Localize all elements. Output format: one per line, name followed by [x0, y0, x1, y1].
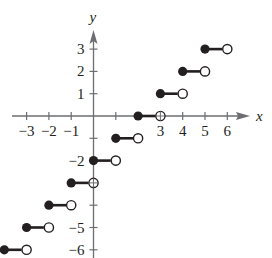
open-endpoint — [200, 67, 209, 76]
closed-endpoint — [134, 111, 143, 120]
x-tick-label: 6 — [224, 123, 232, 139]
x-tick-label: 3 — [157, 123, 165, 139]
y-tick-label: −5 — [69, 220, 85, 236]
open-endpoint — [178, 89, 187, 98]
y-tick-label: −2 — [69, 153, 85, 169]
x-axis-label: x — [255, 108, 263, 124]
y-tick-label: −6 — [69, 242, 85, 258]
y-axis-label: y — [88, 9, 97, 25]
y-tick-label: 2 — [77, 63, 85, 79]
open-endpoint — [67, 201, 76, 210]
closed-endpoint — [200, 45, 209, 54]
open-endpoint — [111, 156, 120, 165]
x-tick-label: −1 — [63, 123, 79, 139]
y-tick-label: 1 — [77, 86, 85, 102]
x-tick-label: −2 — [41, 123, 57, 139]
closed-endpoint — [22, 223, 31, 232]
x-tick-label: 4 — [179, 123, 187, 139]
closed-endpoint — [156, 89, 165, 98]
closed-endpoint — [178, 67, 187, 76]
x-axis-arrow-icon — [236, 112, 250, 120]
closed-endpoint — [67, 178, 76, 187]
closed-endpoint — [44, 201, 53, 210]
step-function-plot: xy−3−2−13456321−2−5−6 — [0, 0, 272, 258]
x-tick-label: −3 — [19, 123, 35, 139]
closed-endpoint — [111, 134, 120, 143]
y-tick-label: 3 — [77, 41, 85, 57]
closed-endpoint — [0, 245, 9, 254]
open-endpoint — [44, 223, 53, 232]
open-endpoint — [22, 245, 31, 254]
x-tick-label: 5 — [201, 123, 209, 139]
closed-endpoint — [89, 156, 98, 165]
open-endpoint — [134, 134, 143, 143]
open-endpoint — [223, 45, 232, 54]
